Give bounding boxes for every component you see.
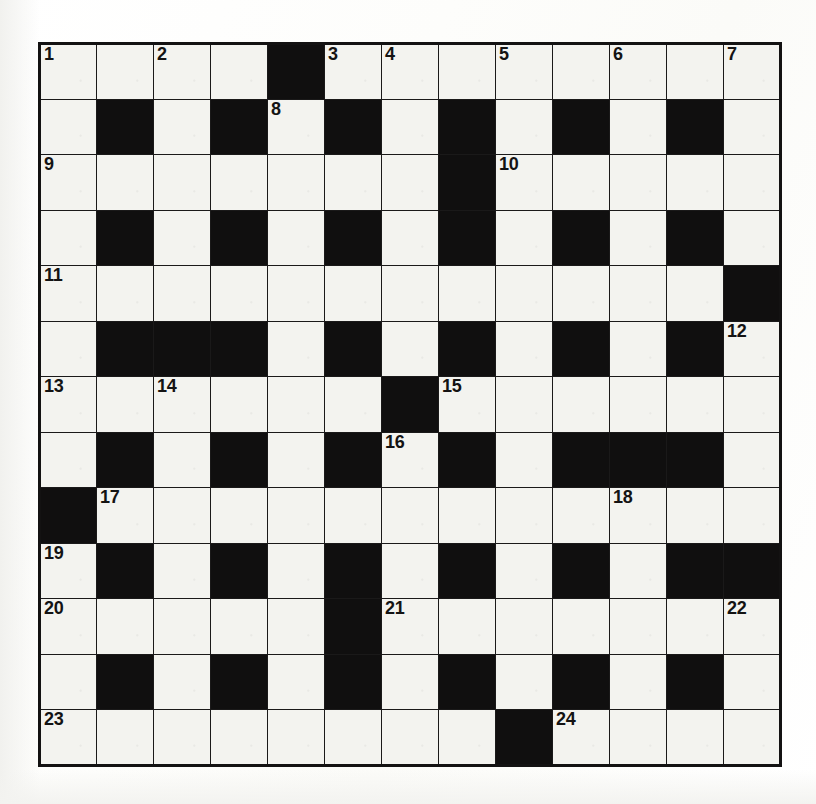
letter-cell[interactable] <box>439 44 496 100</box>
letter-cell[interactable] <box>667 599 724 655</box>
letter-cell[interactable] <box>268 654 325 710</box>
letter-cell[interactable]: 21 <box>382 599 439 655</box>
letter-cell[interactable] <box>382 710 439 766</box>
letter-cell[interactable] <box>667 266 724 322</box>
letter-cell[interactable] <box>439 599 496 655</box>
letter-cell[interactable] <box>325 377 382 433</box>
letter-cell[interactable] <box>724 99 781 155</box>
letter-cell[interactable]: 23 <box>40 710 97 766</box>
letter-cell[interactable] <box>325 710 382 766</box>
letter-cell[interactable] <box>439 710 496 766</box>
letter-cell[interactable] <box>211 377 268 433</box>
letter-cell[interactable]: 3 <box>325 44 382 100</box>
letter-cell[interactable] <box>382 99 439 155</box>
letter-cell[interactable]: 8 <box>268 99 325 155</box>
letter-cell[interactable]: 19 <box>40 543 97 599</box>
letter-cell[interactable]: 5 <box>496 44 553 100</box>
letter-cell[interactable] <box>97 44 154 100</box>
letter-cell[interactable] <box>211 155 268 211</box>
letter-cell[interactable] <box>211 488 268 544</box>
letter-cell[interactable] <box>496 543 553 599</box>
letter-cell[interactable] <box>211 710 268 766</box>
letter-cell[interactable]: 7 <box>724 44 781 100</box>
letter-cell[interactable] <box>268 599 325 655</box>
letter-cell[interactable] <box>553 266 610 322</box>
letter-cell[interactable] <box>211 266 268 322</box>
letter-cell[interactable] <box>154 543 211 599</box>
letter-cell[interactable]: 16 <box>382 432 439 488</box>
letter-cell[interactable] <box>724 155 781 211</box>
letter-cell[interactable] <box>382 543 439 599</box>
letter-cell[interactable] <box>40 432 97 488</box>
letter-cell[interactable] <box>382 155 439 211</box>
letter-cell[interactable]: 22 <box>724 599 781 655</box>
letter-cell[interactable] <box>211 44 268 100</box>
letter-cell[interactable] <box>610 99 667 155</box>
letter-cell[interactable] <box>325 155 382 211</box>
letter-cell[interactable] <box>154 155 211 211</box>
letter-cell[interactable] <box>610 210 667 266</box>
letter-cell[interactable] <box>724 710 781 766</box>
letter-cell[interactable] <box>610 377 667 433</box>
letter-cell[interactable] <box>667 155 724 211</box>
letter-cell[interactable] <box>268 155 325 211</box>
letter-cell[interactable] <box>268 321 325 377</box>
letter-cell[interactable] <box>496 99 553 155</box>
letter-cell[interactable]: 2 <box>154 44 211 100</box>
letter-cell[interactable] <box>724 488 781 544</box>
letter-cell[interactable] <box>154 210 211 266</box>
letter-cell[interactable] <box>97 710 154 766</box>
letter-cell[interactable]: 17 <box>97 488 154 544</box>
letter-cell[interactable] <box>496 488 553 544</box>
letter-cell[interactable] <box>268 266 325 322</box>
letter-cell[interactable] <box>154 266 211 322</box>
letter-cell[interactable] <box>382 266 439 322</box>
letter-cell[interactable] <box>610 654 667 710</box>
letter-cell[interactable] <box>268 488 325 544</box>
letter-cell[interactable] <box>382 488 439 544</box>
letter-cell[interactable]: 20 <box>40 599 97 655</box>
letter-cell[interactable] <box>496 599 553 655</box>
letter-cell[interactable] <box>724 377 781 433</box>
letter-cell[interactable] <box>40 210 97 266</box>
letter-cell[interactable]: 11 <box>40 266 97 322</box>
letter-cell[interactable] <box>667 44 724 100</box>
letter-cell[interactable] <box>97 377 154 433</box>
letter-cell[interactable] <box>382 210 439 266</box>
letter-cell[interactable] <box>553 488 610 544</box>
letter-cell[interactable] <box>667 377 724 433</box>
letter-cell[interactable] <box>553 599 610 655</box>
letter-cell[interactable]: 14 <box>154 377 211 433</box>
letter-cell[interactable] <box>154 599 211 655</box>
letter-cell[interactable]: 9 <box>40 155 97 211</box>
letter-cell[interactable] <box>496 210 553 266</box>
letter-cell[interactable] <box>610 155 667 211</box>
letter-cell[interactable] <box>553 155 610 211</box>
letter-cell[interactable] <box>97 155 154 211</box>
letter-cell[interactable]: 13 <box>40 377 97 433</box>
letter-cell[interactable] <box>211 599 268 655</box>
letter-cell[interactable] <box>325 488 382 544</box>
letter-cell[interactable] <box>610 266 667 322</box>
letter-cell[interactable] <box>154 488 211 544</box>
letter-cell[interactable] <box>382 321 439 377</box>
letter-cell[interactable] <box>496 321 553 377</box>
letter-cell[interactable] <box>496 266 553 322</box>
letter-cell[interactable]: 18 <box>610 488 667 544</box>
letter-cell[interactable] <box>325 266 382 322</box>
letter-cell[interactable] <box>724 210 781 266</box>
letter-cell[interactable] <box>610 543 667 599</box>
letter-cell[interactable] <box>496 432 553 488</box>
letter-cell[interactable] <box>268 377 325 433</box>
letter-cell[interactable] <box>439 488 496 544</box>
letter-cell[interactable] <box>268 432 325 488</box>
letter-cell[interactable] <box>40 99 97 155</box>
letter-cell[interactable] <box>40 321 97 377</box>
letter-cell[interactable]: 24 <box>553 710 610 766</box>
letter-cell[interactable] <box>154 432 211 488</box>
letter-cell[interactable]: 10 <box>496 155 553 211</box>
letter-cell[interactable] <box>439 266 496 322</box>
letter-cell[interactable] <box>496 654 553 710</box>
letter-cell[interactable] <box>154 99 211 155</box>
letter-cell[interactable] <box>154 710 211 766</box>
